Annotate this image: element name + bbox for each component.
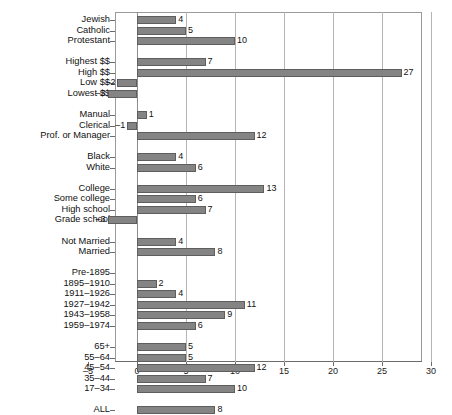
bar-prof-or-manager xyxy=(137,132,255,140)
y-tick-7 xyxy=(110,115,115,116)
category-label-1927-1942: 1927–1942 xyxy=(2,300,110,310)
y-axis-category-labels: JewishCatholicProtestantHighest $$High $… xyxy=(0,0,110,391)
category-label-protestant: Protestant xyxy=(2,36,110,46)
bar-value-lowest: –3 xyxy=(96,89,106,98)
category-label-married: Married xyxy=(2,247,110,257)
y-tick-10 xyxy=(110,157,115,158)
bar-manual xyxy=(137,111,147,119)
y-tick-16 xyxy=(110,242,115,243)
category-label-highest: Highest $$ xyxy=(2,57,110,67)
y-tick-19 xyxy=(110,284,115,285)
category-label-low: Low $$ xyxy=(2,78,110,88)
y-tick-28 xyxy=(110,389,115,390)
y-tick-14 xyxy=(110,210,115,211)
bar-all xyxy=(137,406,215,414)
gridline-30 xyxy=(431,12,432,362)
bar-lowest xyxy=(108,90,137,98)
bar-value-not-married: 4 xyxy=(178,237,183,246)
bar-value-17-34: 10 xyxy=(237,384,247,393)
bar-45-54 xyxy=(137,364,255,372)
category-label-1895-1910: 1895–1910 xyxy=(2,279,110,289)
category-label-grade-school: Grade school xyxy=(2,215,110,225)
category-label-high-school: High school xyxy=(2,205,110,215)
y-tick-24 xyxy=(110,347,115,348)
bar-65 xyxy=(137,343,186,351)
category-label-prof-or-manager: Prof. or Manager xyxy=(2,131,110,141)
bar-value-manual: 1 xyxy=(149,110,154,119)
bar-17-34 xyxy=(137,385,235,393)
bar-value-catholic: 5 xyxy=(188,26,193,35)
category-label-clerical: Clerical xyxy=(2,121,110,131)
bar-value-protestant: 10 xyxy=(237,36,247,45)
bar-value-prof-or-manager: 12 xyxy=(257,131,267,140)
category-label-pre-1895: Pre-1895 xyxy=(2,268,110,278)
y-tick-11 xyxy=(110,168,115,169)
bar-high-school xyxy=(137,206,206,214)
bar-value-some-college: 6 xyxy=(198,194,203,203)
bar-1943-1958 xyxy=(137,311,225,319)
bar-value-low: –2 xyxy=(105,78,115,87)
bar-value-high-school: 7 xyxy=(208,205,213,214)
y-tick-27 xyxy=(110,379,115,380)
bar-value-highest: 7 xyxy=(208,57,213,66)
x-tick-label-25: 25 xyxy=(377,366,387,376)
x-tick-label-15: 15 xyxy=(279,366,289,376)
y-tick-23 xyxy=(110,326,115,327)
category-label-17-34: 17–34 xyxy=(2,384,110,394)
gridline-15 xyxy=(284,12,285,362)
bar-high xyxy=(137,69,402,77)
y-tick-13 xyxy=(110,199,115,200)
y-tick-26 xyxy=(110,368,115,369)
category-label-all: ALL xyxy=(2,405,110,415)
bar-value-all: 8 xyxy=(217,405,222,414)
bar-white xyxy=(137,164,196,172)
bar-value-1943-1958: 9 xyxy=(227,310,232,319)
bar-value-white: 6 xyxy=(198,163,203,172)
bar-not-married xyxy=(137,238,176,246)
y-tick-18 xyxy=(110,273,115,274)
bar-protestant xyxy=(137,37,235,45)
x-tick-label-20: 20 xyxy=(328,366,338,376)
bar-grade-school xyxy=(108,216,137,224)
category-label-55-64: 55–64 xyxy=(2,353,110,363)
bar-value-high: 27 xyxy=(404,68,414,77)
bar-value-1959-1974: 6 xyxy=(198,321,203,330)
category-label-65: 65+ xyxy=(2,342,110,352)
y-tick-22 xyxy=(110,315,115,316)
y-tick-20 xyxy=(110,294,115,295)
bar-value-married: 8 xyxy=(217,247,222,256)
bar-highest xyxy=(137,58,206,66)
category-label-manual: Manual xyxy=(2,110,110,120)
bar-some-college xyxy=(137,195,196,203)
category-label-1943-1958: 1943–1958 xyxy=(2,310,110,320)
y-tick-12 xyxy=(110,189,115,190)
bar-college xyxy=(137,185,264,193)
y-tick-29 xyxy=(110,410,115,411)
bar-1927-1942 xyxy=(137,301,245,309)
category-label-college: College xyxy=(2,184,110,194)
category-label-1911-1926: 1911–1926 xyxy=(2,289,110,299)
bar-value-1911-1926: 4 xyxy=(178,289,183,298)
bar-1911-1926 xyxy=(137,290,176,298)
y-tick-1 xyxy=(110,31,115,32)
bar-catholic xyxy=(137,27,186,35)
y-tick-0 xyxy=(110,20,115,21)
category-label-black: Black xyxy=(2,152,110,162)
bar-1895-1910 xyxy=(137,280,157,288)
bar-value-college: 13 xyxy=(266,184,276,193)
category-label-white: White xyxy=(2,163,110,173)
bar-value-grade-school: –3 xyxy=(96,215,106,224)
bar-55-64 xyxy=(137,354,186,362)
category-label-35-44: 35–44 xyxy=(2,374,110,384)
y-tick-25 xyxy=(110,358,115,359)
category-label-45-54: 45–54 xyxy=(2,363,110,373)
y-tick-21 xyxy=(110,305,115,306)
category-label-catholic: Catholic xyxy=(2,26,110,36)
y-tick-4 xyxy=(110,73,115,74)
bar-value-55-64: 5 xyxy=(188,353,193,362)
gridline-20 xyxy=(333,12,334,362)
bar-value-65: 5 xyxy=(188,342,193,351)
bar-value-35-44: 7 xyxy=(208,374,213,383)
category-label-some-college: Some college xyxy=(2,194,110,204)
